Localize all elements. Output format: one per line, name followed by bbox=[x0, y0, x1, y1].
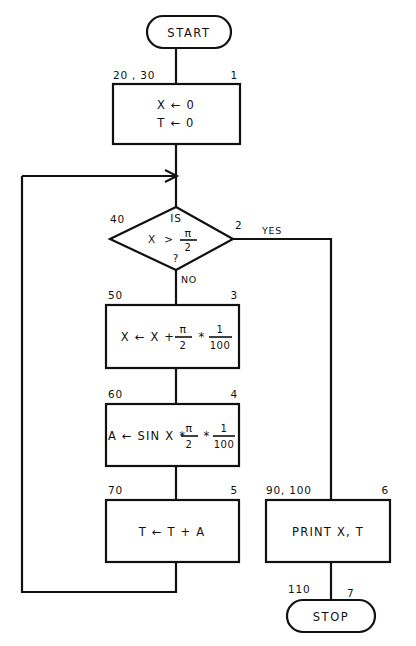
connector-layer bbox=[22, 48, 331, 600]
decision-expr-op: > bbox=[164, 233, 174, 245]
decision-step-label: 2 bbox=[235, 219, 242, 231]
box1-line1: X ← 0 bbox=[157, 98, 195, 112]
box3-frac2-denominator: 100 bbox=[210, 340, 231, 351]
box3-lead: X ← X + bbox=[121, 330, 175, 344]
box3-frac2-numerator: 1 bbox=[217, 324, 224, 335]
box1-line2: T ← 0 bbox=[156, 116, 194, 130]
node-box5[interactable]: T ← T + A bbox=[106, 500, 239, 562]
box1-step-label: 1 bbox=[231, 69, 238, 81]
box5-line-label: 70 bbox=[108, 484, 123, 496]
box3-line-label: 50 bbox=[108, 289, 123, 301]
box4-operator: * bbox=[204, 429, 211, 443]
decision-expr-var: X bbox=[148, 233, 156, 245]
connector-decision-yes-to-box6 bbox=[233, 239, 331, 500]
flowchart-svg: START X ← 0 T ← 0 20 , 30 1 IS X > π 2 ?… bbox=[0, 0, 416, 646]
decision-line-label: 40 bbox=[110, 213, 125, 225]
stop-line-label: 110 bbox=[288, 583, 310, 595]
start-terminal-label: START bbox=[167, 26, 210, 40]
node-box1[interactable]: X ← 0 T ← 0 bbox=[113, 84, 240, 144]
box1-shape bbox=[113, 84, 240, 144]
decision-branch-no-label: NO bbox=[181, 274, 197, 285]
decision-line-top: IS bbox=[170, 212, 181, 224]
decision-expr-numerator: π bbox=[184, 227, 191, 240]
decision-expr-denominator: 2 bbox=[185, 242, 192, 253]
box3-frac1-denominator: 2 bbox=[180, 340, 187, 351]
box5-step-label: 5 bbox=[231, 484, 238, 496]
box1-line-label: 20 , 30 bbox=[113, 69, 155, 81]
box4-lead: A ← SIN X * bbox=[108, 429, 186, 443]
box6-line-label: 90, 100 bbox=[266, 484, 312, 496]
box4-line-label: 60 bbox=[108, 388, 123, 400]
box4-frac2-denominator: 100 bbox=[214, 439, 235, 450]
box4-step-label: 4 bbox=[231, 388, 238, 400]
node-decision[interactable]: IS X > π 2 ? bbox=[110, 207, 233, 270]
box4-frac1-denominator: 2 bbox=[186, 439, 193, 450]
node-stop[interactable]: STOP bbox=[287, 600, 375, 632]
box4-frac2-numerator: 1 bbox=[221, 423, 228, 434]
node-box4[interactable]: A ← SIN X * π 2 * 1 100 bbox=[106, 404, 239, 466]
box6-step-label: 6 bbox=[382, 484, 389, 496]
stop-step-label: 7 bbox=[347, 587, 354, 599]
decision-line-bottom: ? bbox=[173, 252, 179, 264]
box3-frac1-numerator: π bbox=[179, 323, 186, 336]
box5-text: T ← T + A bbox=[138, 525, 206, 539]
box6-text: PRINT X, T bbox=[292, 525, 364, 539]
box4-frac1-numerator: π bbox=[185, 422, 192, 435]
node-start[interactable]: START bbox=[147, 16, 231, 48]
decision-branch-yes-label: YES bbox=[261, 225, 282, 236]
node-box3[interactable]: X ← X + π 2 * 1 100 bbox=[106, 305, 239, 368]
flowchart-canvas: START X ← 0 T ← 0 20 , 30 1 IS X > π 2 ?… bbox=[0, 0, 416, 646]
node-box6[interactable]: PRINT X, T bbox=[266, 500, 390, 562]
box3-step-label: 3 bbox=[231, 289, 238, 301]
box3-operator: * bbox=[199, 330, 206, 344]
stop-terminal-label: STOP bbox=[313, 610, 350, 624]
